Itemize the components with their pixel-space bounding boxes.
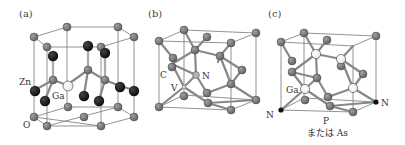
label-n-left: N [266,110,274,120]
panel-label-c: (c) [268,8,282,19]
label-n-right: N [381,98,389,108]
label-or-as: または As [307,128,348,138]
panel-a: (a) [19,8,139,130]
label-v: V [170,83,178,93]
label-ga-c: Ga [286,85,299,95]
label-o: O [23,120,30,130]
vacancy-site [182,85,185,88]
panel-b: (b) [148,8,260,114]
label-n-b: N [202,71,210,81]
crystal-structures-figure: (a) [0,0,405,145]
nitrogen-atom [193,72,200,79]
oxygen-atoms [30,23,138,130]
label-c: C [160,70,167,80]
label-zn: Zn [19,77,31,87]
label-p: P [323,116,329,126]
label-ga-a: Ga [52,91,65,101]
panel-c: (c) [266,8,389,138]
hexagonal-cell-edges [34,27,134,126]
panel-label-a: (a) [19,8,33,19]
panel-label-b: (b) [148,8,162,19]
gallium-dopant-atom [63,81,73,91]
